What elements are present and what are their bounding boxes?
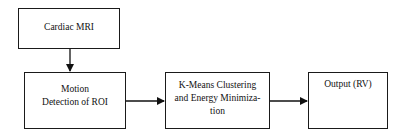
node-label: Cardiac MRI	[19, 21, 119, 34]
node-motion-detection: Motion Detection of ROI	[24, 72, 126, 129]
node-label: Detection of ROI	[25, 96, 125, 109]
node-output-rv: Output (RV)	[308, 72, 388, 129]
node-cardiac-mri: Cardiac MRI	[18, 8, 120, 49]
node-kmeans-clustering: K-Means Clustering and Energy Minimiza- …	[165, 72, 270, 129]
node-label: Output (RV)	[309, 78, 387, 91]
node-label: and Energy Minimiza-	[166, 92, 269, 105]
node-label: Motion	[25, 83, 125, 96]
node-label: tion	[166, 105, 269, 118]
node-label: K-Means Clustering	[166, 79, 269, 92]
